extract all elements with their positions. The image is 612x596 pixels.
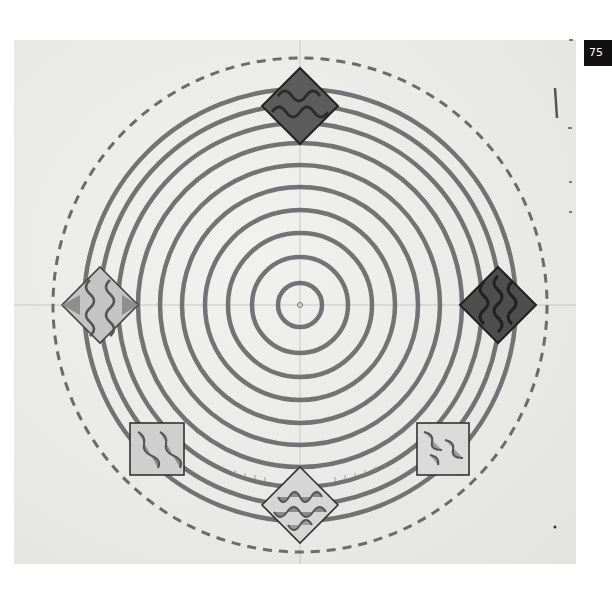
square-lower-right <box>417 423 469 475</box>
page-number-badge: 75 <box>584 40 612 66</box>
diamond-top <box>262 68 338 144</box>
square-lower-left <box>130 423 184 475</box>
diamond-right <box>460 267 536 343</box>
concentric-circle-drawing <box>0 0 612 596</box>
diamond-left <box>62 267 138 343</box>
margin-marks <box>555 40 573 212</box>
margin-dot <box>554 526 557 529</box>
diamond-bottom <box>262 467 338 543</box>
page-number: 75 <box>589 46 603 59</box>
